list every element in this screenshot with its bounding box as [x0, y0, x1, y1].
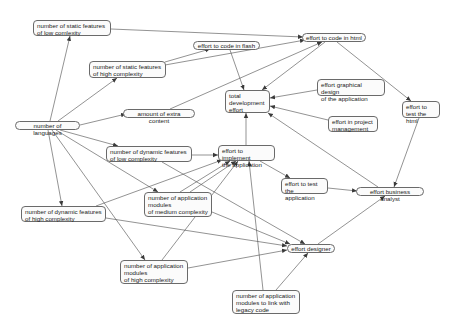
node-extra-content[interactable]: amount of extra content [123, 109, 195, 118]
node-code-flash[interactable]: effort to code in flash [193, 41, 260, 50]
edge-test_app-to-business_analyst [328, 188, 357, 191]
edge-languages-to-extra_content [80, 114, 126, 125]
node-code-html[interactable]: effort to code in html [302, 33, 366, 42]
node-test-app[interactable]: effort to test the application [281, 178, 328, 194]
node-test-html[interactable]: effort to test the html [402, 101, 440, 118]
node-app-legacy[interactable]: number of application modules to link wi… [232, 290, 300, 314]
edge-languages-to-static_high [58, 78, 117, 121]
node-dyn-low[interactable]: number of dynamic features of low comple… [106, 146, 192, 162]
node-app-high[interactable]: number of application modules of high co… [120, 260, 188, 284]
edge-code_flash-to-total_effort [230, 50, 244, 90]
edge-app_legacy-to-implement [249, 161, 263, 290]
edge-app_legacy-to-designer [276, 253, 308, 290]
edge-static_high-to-code_flash [165, 49, 210, 62]
node-total-effort[interactable]: total development effort [225, 90, 270, 113]
edge-implement-to-test_app [260, 161, 290, 178]
edge-test_html-to-business_analyst [394, 118, 419, 187]
edge-code_html-to-total_effort [262, 42, 325, 90]
edge-project_mgmt-to-total_effort [270, 106, 328, 120]
node-business-analyst[interactable]: effort business analyst [356, 187, 424, 196]
node-static-high[interactable]: number of static features of high comple… [89, 61, 166, 78]
node-app-medium[interactable]: number of application modules of medium … [144, 192, 212, 217]
node-designer[interactable]: effort designer [287, 244, 335, 253]
node-graphical-design[interactable]: effort graphical design of the applicati… [317, 79, 385, 96]
edge-app_high-to-designer [188, 250, 287, 268]
node-languages[interactable]: number of languages [15, 121, 80, 130]
edge-app_medium-to-designer [212, 212, 290, 244]
node-dyn-high[interactable]: number of dynamic features of high compl… [21, 206, 106, 222]
node-implement[interactable]: effort to implement the application [218, 145, 275, 161]
node-project-mgmt[interactable]: effort in project management [328, 116, 378, 132]
edge-dyn_high-to-designer [106, 218, 287, 246]
edge-languages-to-static_low [50, 36, 70, 121]
edge-designer-to-business_analyst [318, 196, 385, 244]
edge-graphical_design-to-total_effort [270, 90, 317, 98]
edge-static_low-to-code_html [111, 29, 303, 37]
node-static-low[interactable]: number of static features of low comlexi… [33, 20, 111, 36]
